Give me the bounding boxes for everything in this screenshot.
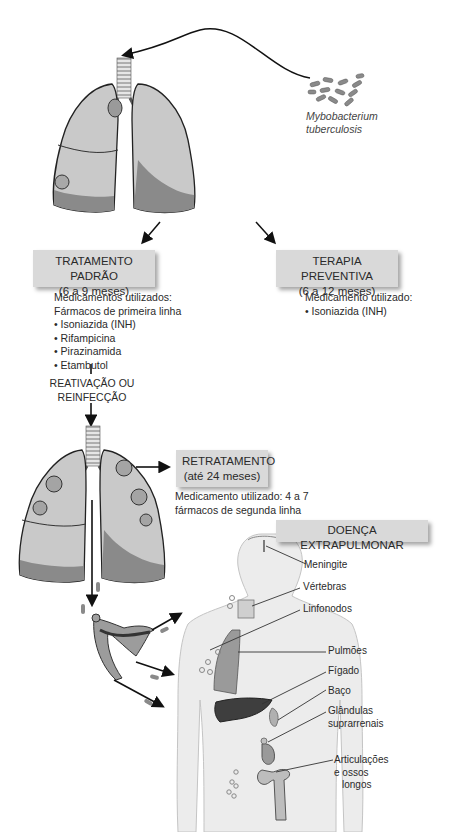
label-glandulas-line2: suprarrenais xyxy=(328,718,384,731)
label-pulmoes: Pulmões xyxy=(328,645,367,658)
lymphatic-network xyxy=(92,614,154,680)
retreatment-duration: (até 24 meses) xyxy=(182,469,262,484)
label-meningite: Meningite xyxy=(304,559,347,572)
standard-treatment-meds: Medicamentos utilizados: Fármacos de pri… xyxy=(54,291,181,372)
standard-treatment-box: TRATAMENTO PADRÃO (6 a 9 meses) xyxy=(33,250,155,287)
label-articulacoes-line2: e ossos xyxy=(334,767,388,780)
reactivation-line1: REATIVAÇÃO OU xyxy=(40,377,144,391)
preventive-therapy-title: TERAPIA PREVENTIVA xyxy=(282,254,392,284)
label-baco: Baço xyxy=(328,685,351,698)
infection-arrow xyxy=(124,29,310,78)
reactivation-line2: REINFECÇÃO xyxy=(40,391,144,405)
meds-header: Medicamentos utilizados: xyxy=(54,291,181,305)
organism-genus: Mybobacterium xyxy=(306,110,378,123)
label-glandulas-line1: Glândulas xyxy=(328,705,384,718)
label-vertebras: Vértebras xyxy=(303,581,346,594)
organism-label: Mybobacterium tuberculosis xyxy=(306,110,378,136)
meds-subheader: Fármacos de primeira linha xyxy=(54,305,181,319)
tb-illustration xyxy=(0,0,456,832)
drug-item: • Pirazinamida xyxy=(54,345,181,359)
label-glandulas: Glândulas suprarrenais xyxy=(328,705,384,730)
retreatment-meds: Medicamento utilizado: 4 a 7 fármacos de… xyxy=(175,490,309,517)
drug-item: • Etambutol xyxy=(54,359,181,373)
drug-item: • Isoniazida (INH) xyxy=(305,305,412,319)
bacteria-icon xyxy=(308,73,364,106)
preventive-therapy-meds: Medicamento utilizado: • Isoniazida (INH… xyxy=(305,291,412,318)
meds-header: Medicamento utilizado: xyxy=(305,291,412,305)
retreatment-meds-line2: fármacos de segunda linha xyxy=(175,504,309,518)
label-articulacoes-line1: Articulações xyxy=(334,754,388,767)
drug-item: • Rifampicina xyxy=(54,332,181,346)
label-linfonodos: Linfonodos xyxy=(303,603,352,616)
label-articulacoes: Articulações e ossos longos xyxy=(334,754,388,792)
trachea-top xyxy=(117,58,131,98)
label-articulacoes-line3: longos xyxy=(334,779,388,792)
reactivation-label: REATIVAÇÃO OU REINFECÇÃO xyxy=(40,377,144,404)
extrapulmonary-title: DOENÇA EXTRAPULMONAR xyxy=(282,523,422,553)
retreatment-meds-line1: Medicamento utilizado: 4 a 7 xyxy=(175,490,309,504)
organism-species: tuberculosis xyxy=(306,123,378,136)
top-lungs xyxy=(53,58,194,213)
label-figado: Fígado xyxy=(328,665,359,678)
retreatment-title: RETRATAMENTO xyxy=(182,454,262,469)
extrapulmonary-box: DOENÇA EXTRAPULMONAR xyxy=(276,520,428,542)
retreatment-box: RETRATAMENTO (até 24 meses) xyxy=(176,450,268,487)
standard-treatment-title: TRATAMENTO PADRÃO xyxy=(39,254,149,284)
drug-item: • Isoniazida (INH) xyxy=(54,318,181,332)
preventive-therapy-box: TERAPIA PREVENTIVA (6 a 12 meses) xyxy=(276,250,398,287)
